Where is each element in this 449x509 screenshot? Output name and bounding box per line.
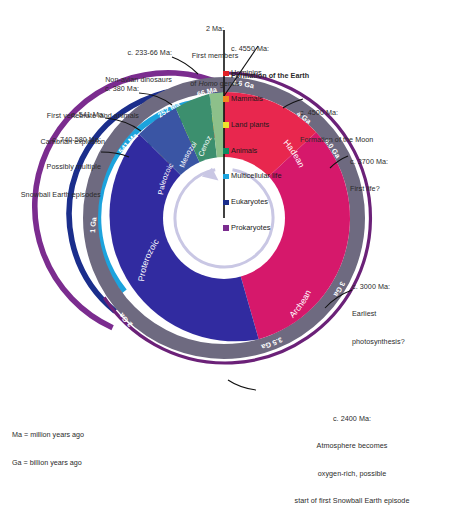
annotation-snowball-neo-line3: Snowball Earth episodes	[2, 190, 101, 199]
life-band-swatch	[223, 174, 229, 180]
life-band-item: Eukaryotes	[231, 198, 282, 207]
tick-label-1-ga: 1 Ga	[88, 215, 99, 233]
units-legend: Ma = million years ago Ga = billion year…	[12, 411, 84, 486]
life-band-item: Multicellular life	[231, 172, 282, 181]
annotation-earliest-photosynthesis: c. 3000 Ma: Earliest photosynthesis?	[352, 264, 447, 364]
life-band-item: Animals	[231, 147, 282, 156]
homo-italic: Homo	[198, 79, 217, 88]
life-band-item: Hominins	[231, 69, 282, 78]
annotation-great-oxidation: c. 2400 Ma: Atmosphere becomes oxygen-ri…	[255, 396, 449, 509]
annotation-photosynthesis-line2: Earliest	[352, 309, 447, 318]
life-band-swatch	[223, 71, 229, 77]
life-band-item: Prokaryotes	[231, 224, 282, 233]
annotation-snowball-neo-line2: Possibly multiple	[2, 162, 101, 171]
annotation-snowball-earth-neoproterozoic: c. 740-580 Ma: Possibly multiple Snowbal…	[2, 117, 101, 217]
life-band-swatch	[223, 148, 229, 154]
legend-ma: Ma = million years ago	[12, 430, 84, 439]
annotation-moon-line1: c. 4500 Ma:	[300, 108, 425, 117]
life-band-item: Mammals	[231, 95, 282, 104]
life-band-swatch	[223, 200, 229, 206]
life-band-swatch	[223, 225, 229, 231]
annotation-oxidation-line4: start of first Snowball Earth episode	[255, 496, 449, 505]
annotation-first-life: c. 3700 Ma: First life?	[350, 139, 440, 212]
svg-text:1 Ga: 1 Ga	[88, 215, 99, 233]
leader-oxidation	[228, 380, 256, 390]
annotation-photosynthesis-line1: c. 3000 Ma:	[352, 282, 447, 291]
annotation-oxidation-line2: Atmosphere becomes	[255, 441, 449, 450]
life-band-swatch	[223, 122, 229, 128]
annotation-oxidation-line1: c. 2400 Ma:	[255, 414, 449, 423]
annotation-snowball-neo-line1: c. 740-580 Ma:	[2, 135, 101, 144]
annotation-first-life-line1: c. 3700 Ma:	[350, 157, 440, 166]
legend-ga: Ga = billion years ago	[12, 458, 84, 467]
life-bands-legend: Hominins Mammals Land plants Animals Mul…	[231, 52, 282, 250]
annotation-oxidation-line3: oxygen-rich, possible	[255, 469, 449, 478]
annotation-first-life-line2: First life?	[350, 184, 440, 193]
life-band-swatch	[223, 96, 229, 102]
annotation-dinosaurs-line1: c. 233-66 Ma:	[60, 48, 172, 57]
life-band-item: Land plants	[231, 121, 282, 130]
annotation-photosynthesis-line3: photosynthesis?	[352, 337, 447, 346]
